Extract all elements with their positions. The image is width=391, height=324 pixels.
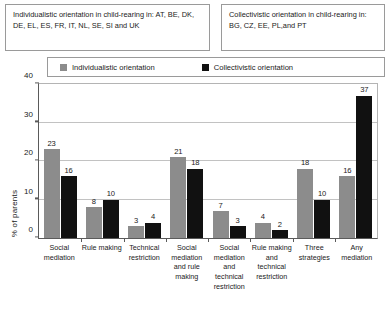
y-axis-tick-label: 30 (24, 109, 39, 118)
legend-label-individualistic: Individualistic orientation (72, 63, 155, 72)
y-axis-title: % of parents (10, 174, 19, 254)
bar-group: 1637 (335, 84, 377, 238)
y-axis-tick-label: 0 (29, 225, 39, 234)
header-notes: Individualistic orientation in child-rea… (0, 0, 391, 51)
y-axis-tick-label: 40 (24, 71, 39, 80)
bar[interactable]: 37 (356, 96, 372, 238)
x-axis-category-label: Three strategies (293, 243, 336, 292)
plot-area: 010203040 2316810342118734218101637 (38, 83, 378, 239)
bar-value-label: 21 (174, 147, 182, 156)
x-axis-category-label: Technical restriction (123, 243, 166, 292)
x-axis-category-label: Rule making and technical restriction (251, 243, 294, 292)
bar-value-label: 8 (92, 197, 96, 206)
bar-value-label: 4 (261, 212, 265, 221)
x-axis-tick-mark (81, 238, 82, 242)
chart-legend: Individualistic orientation Collectivist… (47, 57, 385, 77)
bar-value-label: 3 (134, 216, 138, 225)
x-axis-category-label: Rule making (81, 243, 124, 292)
bar[interactable]: 8 (86, 207, 102, 238)
y-axis-tick-label: 10 (24, 186, 39, 195)
bar[interactable]: 21 (170, 157, 186, 238)
bar-group: 810 (81, 84, 123, 238)
x-axis-category-label: Social mediation (38, 243, 81, 292)
bar-value-label: 37 (360, 85, 368, 94)
bar-value-label: 2 (278, 220, 282, 229)
legend-swatch-collectivistic (202, 64, 209, 71)
legend-label-collectivistic: Collectivistic orientation (214, 63, 293, 72)
bar-value-label: 23 (47, 139, 55, 148)
bar-value-label: 7 (219, 201, 223, 210)
bar-value-label: 16 (343, 166, 351, 175)
bar[interactable]: 2 (272, 230, 288, 238)
bar-value-label: 10 (107, 189, 115, 198)
bar-chart: % of parents 010203040 23168103421187342… (0, 81, 391, 301)
collectivistic-note: Collectivistic orientation in child-rear… (221, 4, 385, 51)
bar-group: 1810 (293, 84, 335, 238)
bar-value-label: 18 (191, 158, 199, 167)
bar-value-label: 10 (318, 189, 326, 198)
bar-groups: 2316810342118734218101637 (39, 84, 377, 238)
x-axis-tick-mark (166, 238, 167, 242)
x-axis-category-label: Social mediation and rule making (166, 243, 209, 292)
bar-value-label: 3 (236, 216, 240, 225)
individualistic-note: Individualistic orientation in child-rea… (5, 4, 210, 51)
bar-group: 42 (250, 84, 292, 238)
x-axis-tick-mark (293, 238, 294, 242)
x-axis-tick-mark (250, 238, 251, 242)
bar-value-label: 4 (151, 212, 155, 221)
bar[interactable]: 7 (213, 211, 229, 238)
bar[interactable]: 18 (187, 169, 203, 238)
bar[interactable]: 3 (128, 226, 144, 238)
bar[interactable]: 10 (103, 200, 119, 239)
bar[interactable]: 16 (61, 176, 77, 238)
bar-group: 2316 (39, 84, 81, 238)
bar[interactable]: 18 (297, 169, 313, 238)
bar[interactable]: 23 (44, 149, 60, 238)
bar-group: 2118 (166, 84, 208, 238)
bar[interactable]: 3 (230, 226, 246, 238)
x-axis-category-label: Social mediation and technical restricti… (208, 243, 251, 292)
x-axis-tick-mark (208, 238, 209, 242)
legend-item-individualistic: Individualistic orientation (60, 63, 155, 72)
bar[interactable]: 10 (314, 200, 330, 239)
bar-value-label: 18 (301, 158, 309, 167)
bar-group: 34 (124, 84, 166, 238)
x-axis-tick-mark (124, 238, 125, 242)
bar[interactable]: 4 (255, 223, 271, 238)
x-axis-tick-mark (335, 238, 336, 242)
bar-group: 73 (208, 84, 250, 238)
x-axis-category-label: Any mediation (336, 243, 379, 292)
bar[interactable]: 16 (339, 176, 355, 238)
legend-swatch-individualistic (60, 64, 67, 71)
bar-value-label: 16 (64, 166, 72, 175)
y-axis-tick-label: 20 (24, 148, 39, 157)
legend-item-collectivistic: Collectivistic orientation (202, 63, 293, 72)
bar[interactable]: 4 (145, 223, 161, 238)
x-axis-labels: Social mediationRule makingTechnical res… (38, 243, 378, 292)
